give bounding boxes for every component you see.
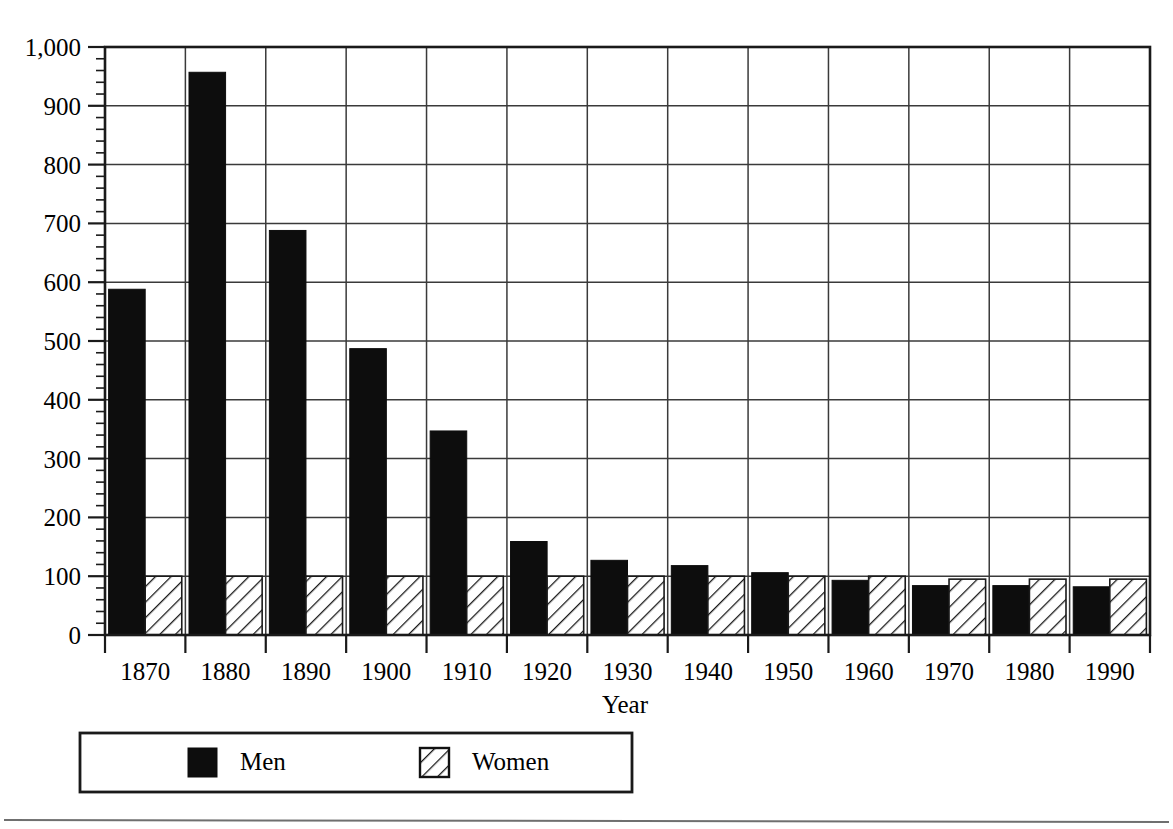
bar-men bbox=[591, 560, 628, 635]
y-axis-tick-label: 600 bbox=[44, 269, 82, 296]
x-axis-title: Year bbox=[602, 691, 649, 718]
bar-men bbox=[993, 586, 1030, 635]
y-axis-tick-label: 500 bbox=[44, 328, 82, 355]
x-axis-tick-label: 1990 bbox=[1085, 658, 1135, 685]
bar-men bbox=[269, 230, 306, 635]
x-axis-tick-label: 1980 bbox=[1004, 658, 1054, 685]
bar-men bbox=[350, 349, 387, 635]
y-axis-tick-label: 0 bbox=[69, 622, 82, 649]
x-axis-tick-label: 1890 bbox=[281, 658, 331, 685]
bar-women bbox=[1110, 579, 1147, 635]
bar-men bbox=[832, 580, 869, 635]
bar-women bbox=[226, 576, 263, 635]
bar-women bbox=[306, 576, 343, 635]
bar-women bbox=[708, 576, 745, 635]
bar-men bbox=[511, 542, 548, 635]
chart-background bbox=[0, 0, 1173, 829]
bar-women bbox=[788, 576, 825, 635]
y-axis-tick-label: 300 bbox=[44, 446, 82, 473]
bar-men bbox=[189, 72, 226, 635]
x-axis-tick-label: 1910 bbox=[442, 658, 492, 685]
x-axis-tick-label: 1960 bbox=[844, 658, 894, 685]
legend-label-men: Men bbox=[240, 748, 286, 775]
bar-women bbox=[949, 579, 986, 635]
legend-label-women: Women bbox=[472, 748, 550, 775]
x-axis-tick-label: 1920 bbox=[522, 658, 572, 685]
bar-men bbox=[430, 431, 467, 635]
bar-women bbox=[386, 576, 423, 635]
x-axis-tick-label: 1900 bbox=[361, 658, 411, 685]
bar-women bbox=[1029, 579, 1066, 635]
bar-men bbox=[671, 566, 708, 635]
bar-men bbox=[912, 586, 949, 635]
x-axis-tick-label: 1940 bbox=[683, 658, 733, 685]
legend-swatch-men bbox=[188, 748, 217, 777]
bar-chart: 01002003004005006007008009001,000 187018… bbox=[0, 0, 1173, 829]
bar-men bbox=[1073, 587, 1110, 635]
x-axis-tick-label: 1870 bbox=[120, 658, 170, 685]
y-axis-tick-label: 800 bbox=[44, 152, 82, 179]
x-axis-tick-label: 1970 bbox=[924, 658, 974, 685]
bar-women bbox=[145, 576, 182, 635]
bar-men bbox=[752, 573, 789, 635]
legend-swatch-women bbox=[420, 748, 449, 777]
y-axis-tick-label: 700 bbox=[44, 210, 82, 237]
x-axis-tick-label: 1930 bbox=[603, 658, 653, 685]
x-axis-tick-label: 1880 bbox=[201, 658, 251, 685]
y-axis-tick-label: 400 bbox=[44, 387, 82, 414]
chart-figure: 01002003004005006007008009001,000 187018… bbox=[0, 0, 1173, 829]
x-axis-tick-label: 1950 bbox=[763, 658, 813, 685]
bar-women bbox=[547, 576, 584, 635]
y-axis-tick-label: 900 bbox=[44, 93, 82, 120]
bar-men bbox=[109, 289, 146, 635]
y-axis-tick-label: 100 bbox=[44, 563, 82, 590]
y-axis-tick-label: 1,000 bbox=[25, 34, 81, 61]
bar-women bbox=[628, 576, 665, 635]
y-axis-tick-label: 200 bbox=[44, 504, 82, 531]
bar-women bbox=[467, 576, 504, 635]
bar-women bbox=[869, 576, 906, 635]
